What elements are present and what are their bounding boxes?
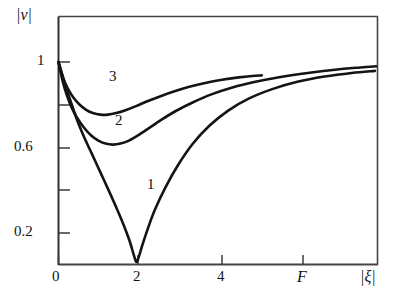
curve-label-2: 2 [115,112,123,129]
curve-label-3: 3 [109,68,117,85]
x-tick-label-2: 2 [133,268,141,285]
y-axis-title: |v| [16,6,32,24]
y-tick-label-1: 1 [37,52,45,69]
x-axis-ticks [59,255,304,265]
chart-figure: |v| F |ξ| 1 0.6 0.2 0 2 4 3 2 1 [0,0,400,304]
x-tick-label-0: 0 [52,268,60,285]
chart-plot-area [0,0,400,304]
x-tick-label-4: 4 [217,268,225,285]
curve-label-1: 1 [147,176,155,193]
curve-2 [59,62,377,145]
y-tick-label-0-2: 0.2 [14,223,33,240]
plot-frame [59,17,379,266]
data-curves [59,62,377,262]
y-tick-label-0-6: 0.6 [14,138,33,155]
x-axis-title: F [297,268,307,286]
x-axis-secondary-title: |ξ| [360,268,376,286]
